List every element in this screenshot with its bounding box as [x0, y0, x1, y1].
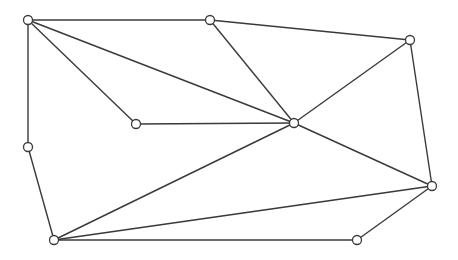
node-E	[290, 119, 299, 128]
graph-edges	[28, 20, 432, 240]
edge-E-G	[294, 123, 432, 186]
node-A	[24, 16, 33, 25]
edge-C-E	[294, 40, 410, 123]
edge-D-E	[136, 123, 294, 124]
edge-C-G	[410, 40, 432, 186]
edge-B-E	[210, 20, 294, 123]
node-C	[406, 36, 415, 45]
node-B	[206, 16, 215, 25]
edge-B-C	[210, 20, 410, 40]
node-F	[24, 143, 33, 152]
graph-nodes	[24, 16, 437, 245]
node-G	[428, 182, 437, 191]
edge-G-I	[357, 186, 432, 240]
node-H	[50, 236, 59, 245]
node-I	[353, 236, 362, 245]
graph-diagram	[0, 0, 458, 260]
edge-F-H	[28, 147, 54, 240]
node-D	[132, 120, 141, 129]
edge-A-E	[28, 20, 294, 123]
edge-A-D	[28, 20, 136, 124]
